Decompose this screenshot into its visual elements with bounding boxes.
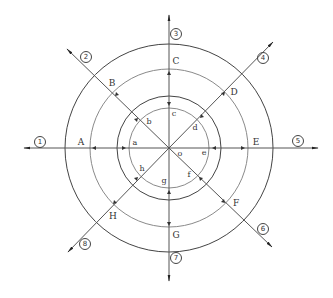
label-e: e [202, 149, 207, 157]
label-h: h [139, 165, 144, 173]
label-B: B [109, 79, 116, 88]
label-A: A [78, 138, 85, 147]
label-C: C [173, 57, 180, 66]
label-E: E [253, 138, 260, 147]
label-F: F [233, 199, 239, 208]
radial-direction-diagram [0, 0, 333, 298]
direction-8-label: 8 [79, 238, 91, 250]
direction-4-label: 4 [257, 52, 269, 64]
label-D: D [230, 88, 237, 97]
direction-3-label: 3 [170, 28, 182, 40]
label-H: H [109, 212, 117, 221]
direction-2-label: 2 [80, 51, 92, 63]
axis-8-arrow [68, 148, 169, 252]
center-label: o [178, 150, 183, 158]
direction-1-label: 1 [34, 136, 46, 148]
label-f: f [188, 171, 191, 179]
label-g: g [161, 177, 166, 185]
direction-6-label: 6 [257, 223, 269, 235]
label-d: d [192, 124, 197, 132]
label-b: b [146, 118, 151, 126]
label-c: c [172, 110, 176, 118]
label-a: a [133, 139, 138, 147]
direction-5-label: 5 [292, 135, 304, 147]
direction-7-label: 7 [170, 252, 182, 264]
label-G: G [172, 231, 179, 240]
